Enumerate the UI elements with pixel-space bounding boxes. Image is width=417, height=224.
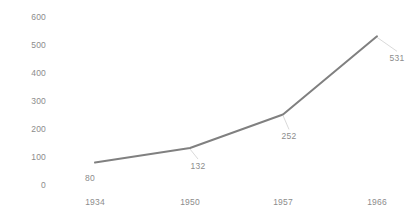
x-axis-tick-label: 1934 [85, 197, 105, 207]
x-axis: 1934195019571966 [0, 0, 417, 224]
x-axis-tick-label: 1957 [273, 197, 293, 207]
x-axis-tick-label: 1950 [180, 197, 200, 207]
line-chart: 0100200300400500600 80132252531 19341950… [0, 0, 417, 224]
x-axis-tick-label: 1966 [367, 197, 387, 207]
